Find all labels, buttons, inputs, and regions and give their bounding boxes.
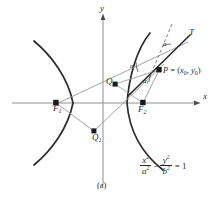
tangent-line-label: T	[189, 28, 194, 37]
equation-rhs: = 1	[175, 161, 187, 171]
point-label-Q1-subscript: 1	[99, 137, 102, 143]
x-axis-label: x	[203, 92, 207, 101]
point-label-P-equals: = (	[168, 65, 180, 75]
x-axis-arrowhead	[194, 101, 200, 106]
equation-y-numerator: y2	[161, 155, 172, 165]
angle-arc-alpha-2	[136, 62, 138, 72]
equation-x-denominator: a2	[140, 165, 151, 176]
point-label-F2-subscript: 2	[144, 109, 147, 115]
equation-y-denominator: b2	[160, 165, 171, 176]
hyperbola-equation: x2 a2 − y2 b2 = 1	[139, 155, 187, 177]
equation-operator: −	[153, 161, 158, 171]
segment-F2-to-P	[143, 70, 159, 103]
y-axis-label: y	[100, 4, 104, 13]
segment-Q1-to-P	[94, 64, 164, 131]
point-label-Q2: Q2	[106, 77, 116, 87]
angle-label-alpha-2: α	[130, 62, 133, 69]
point-label-F2: F2	[138, 105, 147, 115]
equation-x-num-exponent: 2	[146, 154, 149, 160]
y-axis-arrowhead	[101, 14, 106, 20]
point-label-F1: F1	[53, 104, 62, 114]
figure-caption: (a)	[97, 180, 106, 190]
point-label-P-close: )	[198, 65, 201, 75]
point-label-Q1: Q1	[92, 133, 102, 143]
point-label-F1-subscript: 1	[59, 108, 62, 114]
point-label-P: P = (x0, y0)	[163, 66, 201, 76]
equation-x-numerator: x2	[140, 155, 151, 165]
point-marker-P	[156, 67, 161, 72]
equation-y-fraction: y2 b2	[160, 155, 171, 177]
equation-y-num-exponent: 2	[167, 154, 170, 160]
angle-label-alpha-3: α	[143, 77, 146, 84]
segment-F1-to-Q1	[56, 103, 94, 131]
equation-x-fraction: x2 a2	[140, 155, 151, 177]
equation-x-den-exponent: 2	[147, 165, 150, 171]
point-label-Q2-subscript: 2	[113, 81, 116, 87]
figure-container: y x T F1 F2 Q1 Q2 P = (x0, y0) α α α x2 …	[0, 0, 219, 202]
construction-lines	[52, 42, 188, 131]
angle-label-alpha-1: α	[163, 40, 166, 47]
equation-y-den-exponent: 2	[167, 165, 170, 171]
